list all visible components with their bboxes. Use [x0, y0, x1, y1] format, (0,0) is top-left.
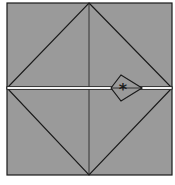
asterisk-marker: *: [119, 80, 128, 99]
horizontal-fold-band: [7, 87, 172, 90]
fold-diagram: *: [0, 0, 175, 185]
